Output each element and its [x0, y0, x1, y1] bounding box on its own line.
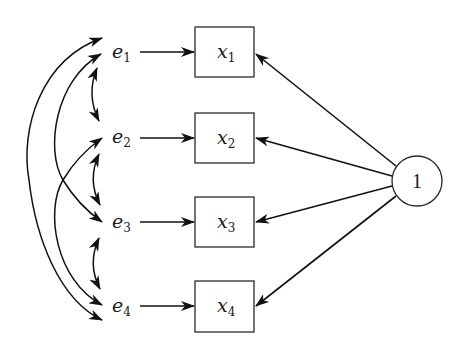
e4-label: e4 [112, 294, 131, 319]
observed-x4: x4 [195, 281, 254, 332]
cov-e1-e2 [92, 68, 99, 121]
cov-e1-e3 [55, 54, 102, 222]
arrow-1-x1 [256, 54, 396, 166]
e3-label: e3 [112, 210, 131, 235]
e1-label: e1 [112, 40, 131, 65]
constant-label: 1 [412, 170, 422, 192]
cov-e2-e3 [93, 154, 100, 205]
observed-x3: x3 [195, 197, 254, 247]
cov-e3-e4 [93, 238, 100, 289]
observed-x1: x1 [195, 27, 254, 77]
observed-x2: x2 [195, 113, 254, 163]
constant-node: 1 [392, 156, 442, 206]
arrow-1-x3 [256, 186, 392, 222]
path-diagram: x1 x2 x3 x4 e1 e2 e3 e4 1 [0, 0, 467, 352]
arrow-1-x2 [256, 138, 392, 176]
e2-label: e2 [112, 125, 131, 150]
arrow-1-x4 [256, 196, 396, 306]
